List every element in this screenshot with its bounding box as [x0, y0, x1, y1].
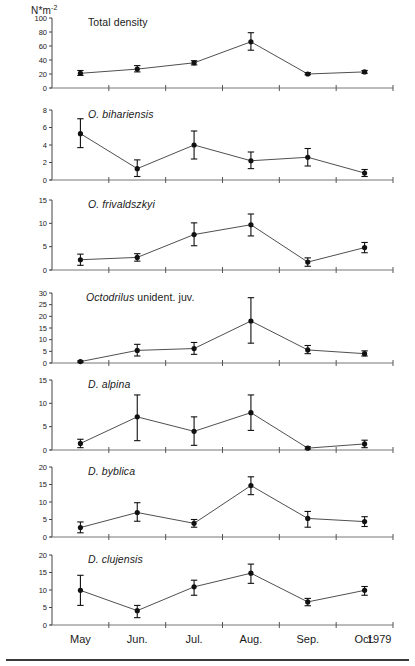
- x-axis-label-jul: Jul.: [168, 633, 220, 645]
- data-point-marker: [305, 71, 310, 76]
- y-tick-label: 10: [39, 399, 47, 408]
- year-label: 1979: [367, 633, 391, 645]
- data-point-marker: [305, 599, 310, 604]
- y-unit-exponent: -2: [51, 4, 58, 11]
- chart-title-italic: D. clujensis: [88, 553, 143, 565]
- data-point-marker: [362, 588, 367, 593]
- data-point-marker: [362, 441, 367, 446]
- y-tick-label: 6: [43, 123, 47, 132]
- y-tick-label: 5: [43, 242, 47, 251]
- y-tick-label: 20: [39, 463, 47, 472]
- y-tick-label: 2: [43, 158, 47, 167]
- y-tick-label: 25: [39, 300, 47, 309]
- chart-title-plain: unident. juv.: [134, 291, 194, 303]
- y-tick-label: 4: [43, 141, 47, 150]
- y-tick-label: 15: [39, 376, 47, 385]
- data-point-marker: [362, 69, 367, 74]
- data-point-marker: [191, 584, 196, 589]
- data-point-group: [248, 564, 254, 583]
- y-tick-label: 10: [39, 335, 47, 344]
- y-tick-label: 20: [39, 551, 47, 560]
- data-point-group: [361, 517, 367, 527]
- data-point-group: [305, 511, 311, 527]
- data-point-group: [305, 71, 311, 76]
- chart-title-italic: D. alpina: [88, 378, 130, 390]
- y-tick-label: 5: [43, 515, 47, 524]
- data-point-marker: [78, 359, 83, 364]
- series-line: [80, 321, 364, 362]
- data-point-group: [248, 298, 254, 344]
- data-point-marker: [248, 483, 253, 488]
- data-point-group: [191, 417, 197, 445]
- data-point-group: [77, 575, 83, 605]
- data-point-group: [77, 522, 83, 533]
- chart-panel-1: 020406080100Total density: [0, 12, 415, 98]
- y-tick-label: 15: [39, 324, 47, 333]
- data-point-marker: [78, 588, 83, 593]
- y-tick-label: 5: [43, 603, 47, 612]
- chart-panel-4: 051015202530Octodrilus unident. juv.: [0, 287, 415, 373]
- y-tick-label: 0: [43, 621, 47, 630]
- data-point-group: [191, 342, 197, 354]
- data-point-marker: [135, 510, 140, 515]
- data-point-group: [191, 580, 197, 595]
- data-point-marker: [362, 170, 367, 175]
- x-axis-label-may: May: [54, 633, 106, 645]
- series-line: [80, 42, 364, 74]
- series-line: [80, 225, 364, 262]
- chart-canvas: 05101520: [0, 461, 415, 547]
- data-point-group: [191, 520, 197, 528]
- data-point-marker: [135, 608, 140, 613]
- data-point-group: [191, 60, 197, 65]
- data-point-marker: [135, 414, 140, 419]
- data-point-marker: [362, 519, 367, 524]
- data-point-group: [134, 344, 140, 356]
- y-tick-label: 15: [39, 568, 47, 577]
- data-point-group: [77, 71, 83, 76]
- y-tick-label: 5: [43, 347, 47, 356]
- y-tick-label: 0: [43, 176, 47, 185]
- data-point-group: [361, 351, 367, 356]
- x-axis-label-aug: Aug.: [225, 633, 277, 645]
- data-point-marker: [78, 525, 83, 530]
- data-point-marker: [191, 232, 196, 237]
- bottom-divider: [6, 659, 409, 661]
- data-point-marker: [191, 429, 196, 434]
- series-line: [80, 413, 364, 448]
- chart-panel-2: 02468O. bihariensis: [0, 104, 415, 190]
- data-point-marker: [305, 347, 310, 352]
- y-tick-label: 60: [39, 42, 47, 51]
- data-point-group: [134, 605, 140, 617]
- chart-title-italic: D. byblica: [88, 465, 135, 477]
- y-tick-label: 10: [39, 498, 47, 507]
- x-axis-label-jun: Jun.: [111, 633, 163, 645]
- y-tick-label: 0: [43, 266, 47, 275]
- data-point-marker: [191, 346, 196, 351]
- chart-title-1: Total density: [88, 16, 148, 28]
- data-point-group: [248, 152, 254, 169]
- y-tick-label: 5: [43, 422, 47, 431]
- data-point-marker: [248, 318, 253, 323]
- y-tick-label: 40: [39, 56, 47, 65]
- data-point-marker: [78, 257, 83, 262]
- series-line: [80, 134, 364, 173]
- data-point-group: [134, 254, 140, 261]
- y-tick-label: 0: [43, 446, 47, 455]
- figure-root: N*m-2 020406080100Total density02468O. b…: [0, 0, 415, 666]
- chart-title-italic: O. frivaldszkyi: [88, 198, 155, 210]
- data-point-group: [77, 119, 83, 148]
- data-point-group: [361, 587, 367, 596]
- data-point-group: [305, 149, 311, 167]
- y-tick-label: 0: [43, 533, 47, 542]
- data-point-marker: [135, 67, 140, 72]
- y-tick-label: 100: [34, 14, 47, 23]
- data-point-group: [134, 66, 140, 72]
- data-point-marker: [305, 155, 310, 160]
- data-point-marker: [191, 521, 196, 526]
- chart-panel-6: 05101520D. byblica: [0, 461, 415, 547]
- data-point-group: [361, 242, 367, 252]
- x-axis-month-labels: MayJun.Jul.Aug.Sep.Oct.: [0, 633, 415, 651]
- chart-title-6: D. byblica: [88, 465, 135, 477]
- data-point-marker: [78, 71, 83, 76]
- data-point-group: [191, 223, 197, 246]
